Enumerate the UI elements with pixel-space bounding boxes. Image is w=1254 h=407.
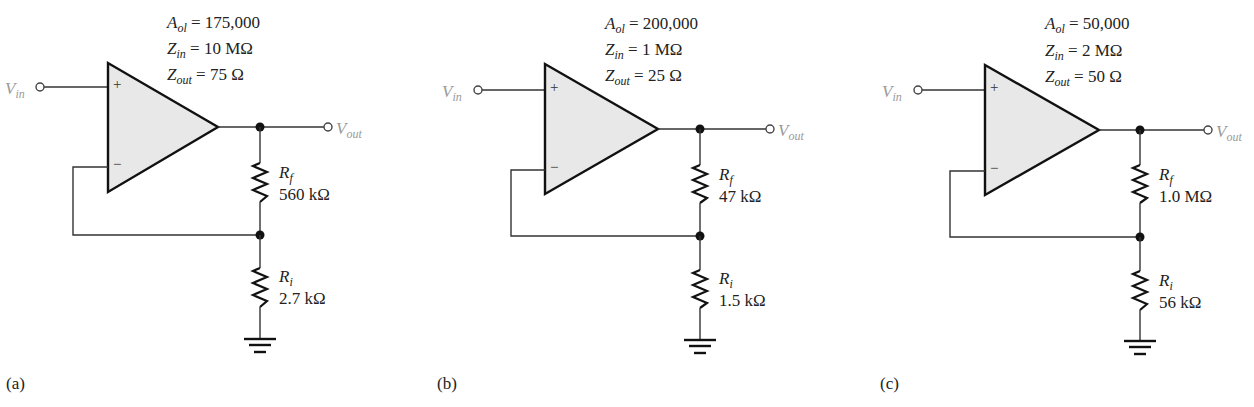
- plus-input-label: +: [990, 80, 998, 95]
- zin-param: Zin = 2 MΩ: [1045, 42, 1122, 59]
- vout-label: Vout: [1216, 123, 1242, 140]
- vin-label: Vin: [882, 83, 902, 100]
- vin-terminal: [914, 86, 922, 94]
- caption-c: (c): [880, 375, 899, 392]
- vout-terminal: [1204, 126, 1212, 134]
- feedback-wire: [950, 171, 1140, 237]
- zout-param: Zout = 50 Ω: [1045, 68, 1122, 85]
- ri-resistor: [1133, 271, 1147, 310]
- minus-input-label: −: [990, 161, 998, 176]
- circuit-c-schematic: [0, 0, 1254, 407]
- ground-icon: [1124, 341, 1156, 354]
- ri-value: 56 kΩ: [1159, 294, 1201, 311]
- rf-resistor: [1133, 165, 1147, 203]
- rf-label: Rf: [1159, 166, 1173, 183]
- ri-label: Ri: [1159, 272, 1173, 289]
- circuit-c: + − Aol = 50,000 Zin = 2 MΩ Zout = 50 Ω …: [0, 0, 420, 407]
- aol-param: Aol = 50,000: [1045, 15, 1130, 32]
- rf-value: 1.0 MΩ: [1159, 188, 1212, 205]
